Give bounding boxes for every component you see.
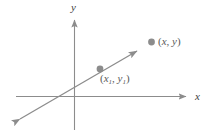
point-x1y1-label: (x1, y1) <box>100 73 130 84</box>
point-xy-close-paren: ) <box>177 35 181 47</box>
point-x1y1-y-subscript: 1 <box>122 78 126 86</box>
plotted-line <box>20 51 137 119</box>
point-x1y1-x-subscript: 1 <box>109 78 113 86</box>
point-xy-label: (x, y) <box>158 36 181 47</box>
point-xy-marker <box>148 39 155 46</box>
x-axis-label: x <box>195 91 200 102</box>
coordinate-plane-figure: y x (x, y) (x1, y1) <box>0 0 212 139</box>
point-x1y1-close-paren: ) <box>126 72 130 84</box>
y-axis-label: y <box>71 2 76 13</box>
point-x1y1-x: x <box>104 72 109 84</box>
figure-canvas <box>0 0 212 139</box>
